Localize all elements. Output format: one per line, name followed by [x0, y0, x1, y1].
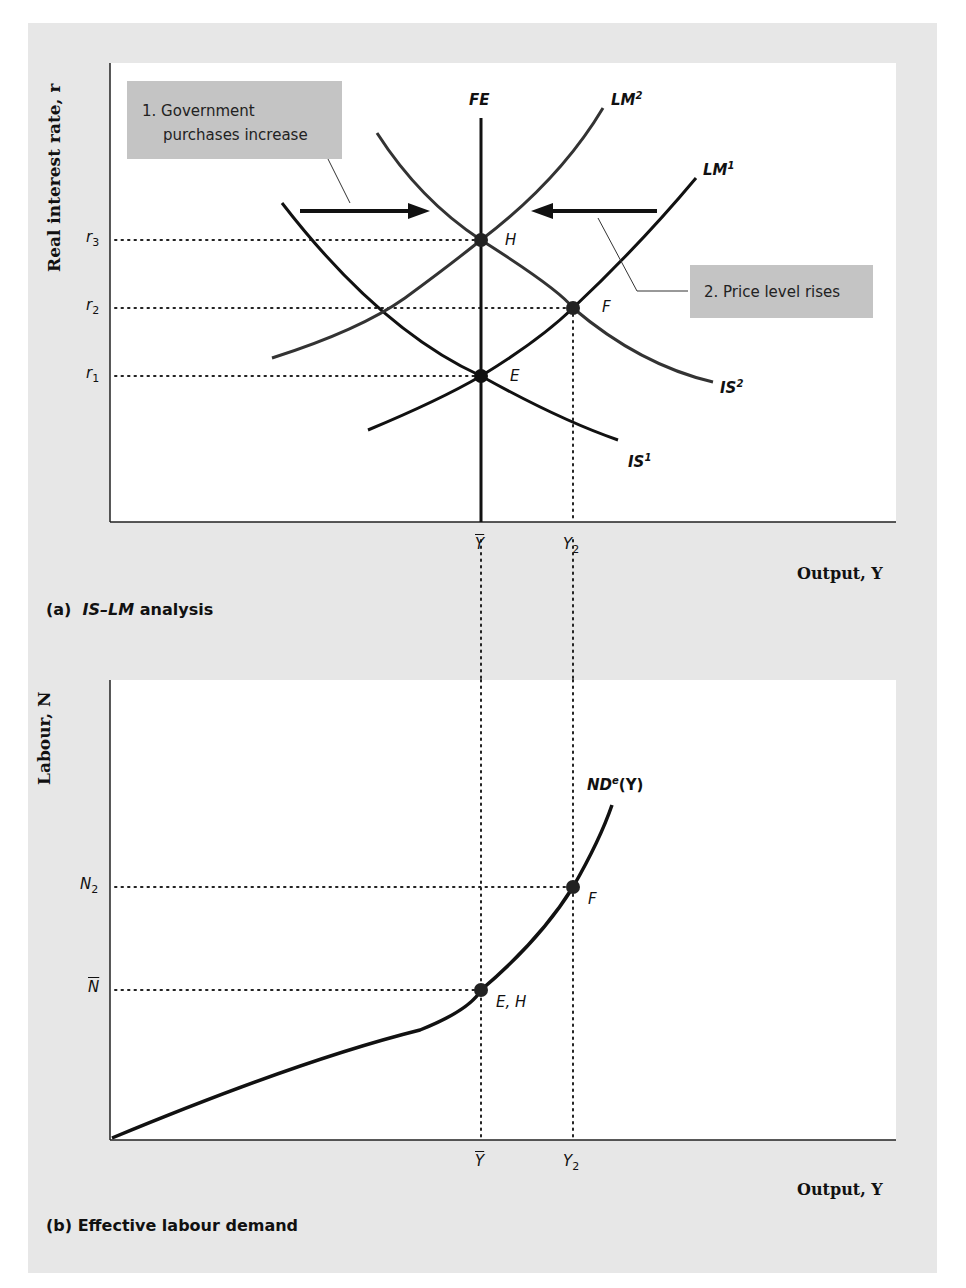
lm1-base: LM	[703, 161, 728, 179]
nde-curve	[112, 805, 612, 1138]
xtick-y2-b: Y2	[563, 1152, 579, 1173]
label-point-h: H	[505, 231, 516, 249]
label-point-f-b: F	[588, 890, 597, 908]
ytick-nbar: N	[88, 978, 99, 996]
ytick-r1: r1	[86, 364, 99, 385]
ytick-r3: r3	[86, 228, 99, 249]
y2b-base: Y	[563, 1152, 572, 1170]
lm1-sup: 1	[728, 160, 735, 171]
nde-sup: e	[612, 775, 619, 786]
callout-1-line2: purchases increase	[163, 125, 308, 145]
callout-government-purchases: 1. Government purchases increase	[127, 81, 342, 159]
r1-sub: 1	[92, 372, 99, 385]
point-f-b	[566, 880, 580, 894]
is2-base: IS	[720, 379, 736, 397]
xlabel-output-b: Output, Y	[797, 1180, 883, 1199]
is2-sup: 2	[736, 378, 743, 389]
label-is2: IS2	[720, 378, 743, 397]
callout-1-line1: 1. Government	[142, 101, 255, 121]
n2-base: N	[80, 875, 91, 893]
label-lm2: LM2	[611, 90, 642, 109]
label-nde-curve: NDe(Y)	[587, 775, 643, 794]
xtick-ybar-a: Y	[475, 535, 484, 553]
nde-base: ND	[587, 776, 612, 794]
caption-a: (a) IS–LM analysis	[46, 600, 213, 619]
label-fe: FE	[469, 91, 490, 109]
ylabel-real-interest-rate: Real interest rate, r	[44, 84, 64, 272]
xtick-y2-a: Y2	[563, 535, 579, 556]
callout-price-level: 2. Price level rises	[690, 265, 873, 318]
guide-lines-b	[115, 680, 573, 1140]
caption-a-prefix: (a)	[46, 600, 71, 619]
y2b-sub: 2	[572, 1160, 579, 1173]
ytick-n2: N2	[80, 875, 98, 896]
r3-sub: 3	[92, 236, 99, 249]
caption-b: (b) Effective labour demand	[46, 1216, 298, 1235]
nde-suffix: (Y)	[619, 776, 644, 794]
point-eh	[474, 983, 488, 997]
is1-base: IS	[628, 453, 644, 471]
xlabel-output-a: Output, Y	[797, 564, 883, 583]
label-lm1: LM1	[703, 160, 734, 179]
is1-sup: 1	[644, 452, 651, 463]
caption-a-italic: IS–LM	[83, 600, 135, 619]
label-is1: IS1	[628, 452, 651, 471]
ylabel-labour: Labour, N	[34, 691, 54, 785]
r2-sub: 2	[92, 304, 99, 317]
label-point-e: E	[510, 367, 519, 385]
xtick-ybar-b: Y	[475, 1152, 484, 1170]
lm2-sup: 2	[636, 90, 643, 101]
n2-sub: 2	[91, 883, 98, 896]
caption-a-suffix: analysis	[140, 600, 213, 619]
y2a-sub: 2	[572, 543, 579, 556]
y2a-base: Y	[563, 535, 572, 553]
lm2-base: LM	[611, 91, 636, 109]
label-point-f: F	[602, 298, 611, 316]
label-point-eh: E, H	[496, 993, 526, 1011]
callout-2-text: 2. Price level rises	[704, 282, 840, 302]
ytick-r2: r2	[86, 296, 99, 317]
labour-chart-svg	[0, 0, 966, 1288]
